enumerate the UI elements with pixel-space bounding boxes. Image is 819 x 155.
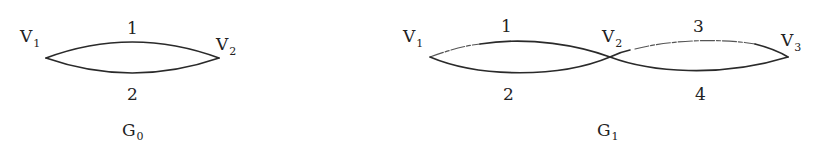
- g1-vertex-v3-label: V3: [780, 30, 801, 54]
- g1-edge-1-light-segment: [430, 44, 480, 57]
- g1-vertex-v1-label: V1: [402, 26, 423, 50]
- g1-edge-1: [480, 41, 788, 70]
- g0-vertex-v1-label: V1: [19, 26, 40, 50]
- g1-edge-4-label: 4: [695, 84, 706, 104]
- graph-diagram: V1 V2 1 2 G0 V1 V2 V3 1 2 3 4 G1: [0, 0, 819, 155]
- g0-edge-2-label: 2: [127, 84, 138, 104]
- g0-graph-label: G0: [122, 120, 144, 143]
- g1-edge-2-label: 2: [503, 84, 514, 104]
- g0-edge-1-label: 1: [127, 18, 138, 38]
- g1-vertex-v2-label: V2: [601, 26, 622, 50]
- g0-edge-2: [46, 58, 219, 73]
- g1-edge-1-label: 1: [501, 16, 512, 36]
- g1-edge-3-light-segment: [635, 41, 755, 49]
- graph-g1: V1 V2 V3 1 2 3 4 G1: [402, 16, 801, 143]
- g1-graph-label: G1: [597, 120, 619, 143]
- graph-g0: V1 V2 1 2 G0: [19, 18, 236, 143]
- g0-vertex-v2-label: V2: [215, 34, 236, 58]
- g0-edge-1: [46, 42, 219, 58]
- g1-edge-3-label: 3: [693, 16, 704, 36]
